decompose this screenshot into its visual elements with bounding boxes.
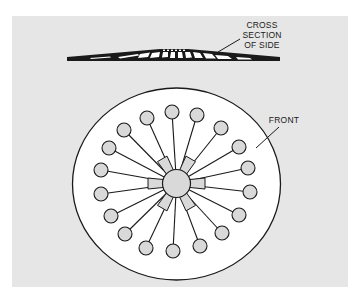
spoke-node: [104, 209, 118, 223]
front-label: FRONT: [269, 115, 299, 125]
spoke-node: [165, 105, 179, 119]
disk-diagram: CROSS SECTION OF SIDE FRONT: [0, 0, 358, 299]
spoke-node: [215, 226, 229, 240]
cross-section-label-1: CROSS: [246, 20, 277, 30]
center-hub: [163, 170, 191, 198]
spoke-node: [94, 163, 108, 177]
cross-section-label-2: SECTION: [242, 30, 281, 40]
spoke-node: [190, 108, 204, 122]
spoke-node: [232, 208, 246, 222]
cross-section-label-3: OF SIDE: [244, 40, 280, 50]
spoke-node: [140, 111, 154, 125]
spoke-node: [214, 121, 228, 135]
spoke-node: [117, 123, 131, 137]
spoke-node: [193, 239, 207, 253]
spoke-node: [118, 227, 132, 241]
spoke-node: [102, 141, 116, 155]
spoke-node: [139, 241, 153, 255]
spoke-node: [166, 244, 180, 258]
spoke-node: [94, 187, 108, 201]
spoke-node: [243, 185, 257, 199]
spoke-node: [241, 161, 255, 175]
spoke-node: [232, 140, 246, 154]
